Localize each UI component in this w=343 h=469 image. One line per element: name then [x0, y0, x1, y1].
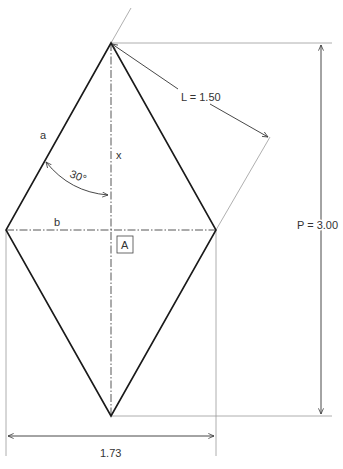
label-side-length: L = 1.50: [181, 91, 221, 103]
side-extension-top: [111, 8, 131, 43]
label-b: b: [54, 216, 60, 228]
label-side-a: a: [40, 129, 47, 141]
label-width: 1.73: [100, 447, 121, 459]
label-x: x: [116, 149, 122, 161]
rhombus-diagram: a x b A 30° L = 1.50 P = 3.00 1.73: [0, 0, 343, 469]
extension-lines: [6, 8, 332, 456]
label-angle: 30°: [68, 167, 88, 184]
side-extension-right: [216, 137, 270, 230]
label-area-a: A: [121, 239, 129, 251]
label-height: P = 3.00: [297, 219, 338, 231]
